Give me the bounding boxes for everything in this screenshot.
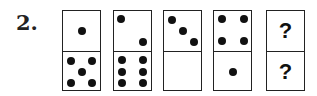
pip-icon bbox=[218, 37, 226, 45]
pip-icon bbox=[67, 79, 75, 87]
pip-icon bbox=[118, 79, 126, 87]
pip-icon bbox=[78, 68, 86, 76]
pip-icon bbox=[179, 27, 187, 35]
pip-icon bbox=[218, 15, 226, 23]
pip-icon bbox=[117, 15, 125, 23]
domino-1-bottom bbox=[63, 51, 100, 91]
question-number: 2. bbox=[16, 10, 38, 35]
pip-icon bbox=[229, 68, 237, 76]
domino-5-top: ? bbox=[267, 11, 304, 50]
domino-4 bbox=[213, 10, 252, 91]
pip-icon bbox=[139, 68, 147, 76]
domino-2 bbox=[113, 10, 152, 91]
domino-1-top bbox=[63, 11, 100, 50]
pip-icon bbox=[118, 68, 126, 76]
question-mark-icon: ? bbox=[267, 59, 304, 85]
pip-icon bbox=[139, 56, 147, 64]
pip-icon bbox=[168, 16, 176, 24]
domino-4-bottom bbox=[214, 51, 251, 91]
question-mark-icon: ? bbox=[267, 18, 304, 44]
pip-icon bbox=[88, 79, 96, 87]
domino-3-top bbox=[164, 11, 201, 50]
pip-icon bbox=[190, 38, 198, 46]
domino-1 bbox=[62, 10, 101, 91]
domino-5-bottom: ? bbox=[267, 51, 304, 91]
pip-icon bbox=[240, 15, 248, 23]
pip-icon bbox=[67, 57, 75, 65]
domino-2-top bbox=[114, 11, 151, 50]
domino-5-unknown: ? ? bbox=[266, 10, 305, 91]
pip-icon bbox=[139, 38, 147, 46]
pip-icon bbox=[88, 57, 96, 65]
pip-icon bbox=[139, 79, 147, 87]
domino-3 bbox=[163, 10, 202, 91]
pip-icon bbox=[78, 27, 86, 35]
domino-3-bottom bbox=[164, 51, 201, 91]
domino-4-top bbox=[214, 11, 251, 50]
pip-icon bbox=[118, 56, 126, 64]
pip-icon bbox=[240, 37, 248, 45]
domino-2-bottom bbox=[114, 51, 151, 91]
